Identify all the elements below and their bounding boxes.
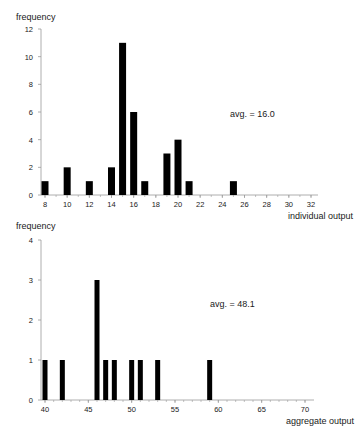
x-tick-label: 10 xyxy=(63,200,71,209)
x-tick-label: 40 xyxy=(41,405,49,414)
x-tick-label: 65 xyxy=(257,405,265,414)
y-tick-label: 12 xyxy=(25,25,33,34)
x-tick-label: 45 xyxy=(84,405,92,414)
bar xyxy=(230,181,237,195)
bar xyxy=(163,154,170,196)
bar xyxy=(42,181,49,195)
y-tick-label: 4 xyxy=(29,136,33,145)
y-tick-label: 1 xyxy=(29,356,33,365)
bar xyxy=(207,360,212,400)
x-axis-label: aggregate output xyxy=(286,416,355,426)
y-axis-label: frequency xyxy=(16,221,56,231)
y-tick-label: 2 xyxy=(29,316,33,325)
axes: 0123440455055606570 xyxy=(29,236,314,414)
average-annotation: avg. = 48.1 xyxy=(210,299,255,309)
x-tick-label: 28 xyxy=(262,200,270,209)
y-tick-label: 3 xyxy=(29,276,33,285)
bar xyxy=(86,181,93,195)
bar xyxy=(130,112,137,195)
x-tick-label: 55 xyxy=(171,405,179,414)
bar xyxy=(129,360,134,400)
x-tick-label: 24 xyxy=(218,200,226,209)
y-tick-label: 2 xyxy=(29,163,33,172)
bar xyxy=(103,360,108,400)
y-tick-label: 4 xyxy=(29,236,33,245)
x-tick-label: 70 xyxy=(301,405,309,414)
bar xyxy=(95,280,100,400)
individual-output-histogram: frequency avg. = 16.0 individual output … xyxy=(16,12,354,221)
aggregate-output-histogram: frequency avg. = 48.1 aggregate output 0… xyxy=(16,221,355,426)
x-tick-label: 30 xyxy=(285,200,293,209)
x-tick-label: 20 xyxy=(174,200,182,209)
x-tick-label: 8 xyxy=(43,200,47,209)
bar xyxy=(186,181,193,195)
bar xyxy=(60,360,65,400)
y-tick-label: 0 xyxy=(29,191,33,200)
x-tick-label: 32 xyxy=(307,200,315,209)
x-tick-label: 12 xyxy=(85,200,93,209)
bar xyxy=(141,181,148,195)
x-tick-label: 26 xyxy=(240,200,248,209)
figure: frequency avg. = 16.0 individual output … xyxy=(0,0,364,438)
x-tick-label: 50 xyxy=(127,405,135,414)
y-tick-label: 8 xyxy=(29,80,33,89)
bar xyxy=(138,360,143,400)
average-annotation: avg. = 16.0 xyxy=(230,109,275,119)
bar xyxy=(155,360,160,400)
y-axis-label: frequency xyxy=(16,12,56,22)
bar xyxy=(175,140,182,195)
bar xyxy=(64,167,71,195)
bars xyxy=(42,43,237,195)
y-tick-label: 6 xyxy=(29,108,33,117)
x-axis-label: individual output xyxy=(288,211,354,221)
y-tick-label: 0 xyxy=(29,396,33,405)
x-tick-label: 16 xyxy=(129,200,137,209)
x-tick-label: 60 xyxy=(214,405,222,414)
bars xyxy=(43,280,213,400)
bar xyxy=(119,43,126,195)
bar xyxy=(112,360,117,400)
x-tick-label: 14 xyxy=(107,200,115,209)
x-tick-label: 18 xyxy=(152,200,160,209)
bar xyxy=(43,360,48,400)
x-tick-label: 22 xyxy=(196,200,204,209)
y-tick-label: 10 xyxy=(25,53,33,62)
bar xyxy=(108,167,115,195)
